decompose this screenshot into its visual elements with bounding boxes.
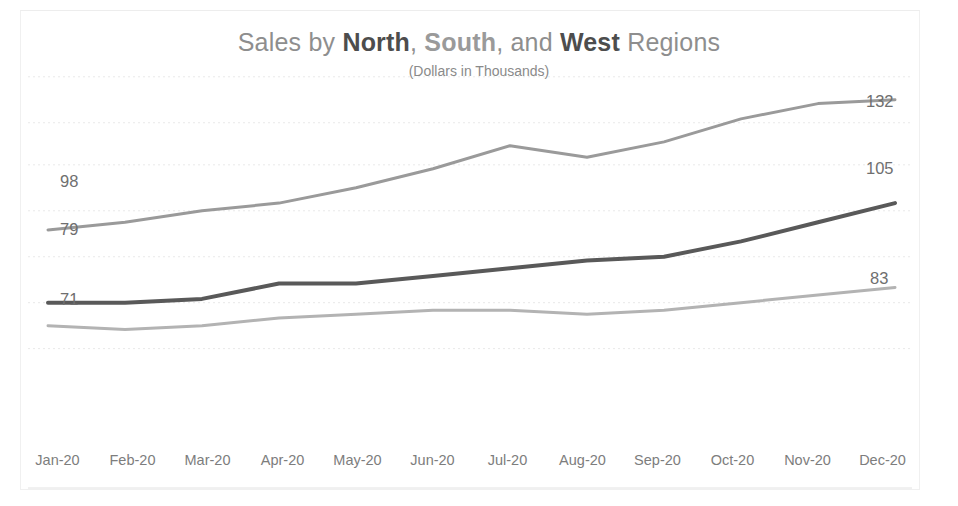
chart-canvas [20,10,920,490]
x-tick-label: Aug-20 [545,452,620,478]
x-tick-label: Mar-20 [170,452,245,478]
value-label-north-end: 105 [866,159,894,178]
plot-area [20,10,920,490]
value-label-south-start: 98 [60,172,78,191]
x-axis-labels: Jan-20Feb-20Mar-20Apr-20May-20Jun-20Jul-… [20,452,920,478]
x-tick-label: Feb-20 [95,452,170,478]
series-line-south [48,100,895,230]
x-tick-label: Sep-20 [620,452,695,478]
value-label-west-start: 71 [60,290,78,309]
x-tick-label: Apr-20 [245,452,320,478]
value-label-west-end: 83 [870,269,888,288]
x-tick-label: Nov-20 [770,452,845,478]
value-label-south-end: 132 [866,92,894,111]
value-label-north-start: 79 [60,220,78,239]
x-tick-label: Dec-20 [845,452,920,478]
series-line-north [48,203,895,303]
x-tick-label: Jun-20 [395,452,470,478]
series-line-west [48,287,895,329]
x-tick-label: May-20 [320,452,395,478]
chart-screenshot: Sales by North, South, and West Regions … [0,0,958,506]
x-tick-label: Oct-20 [695,452,770,478]
x-tick-label: Jan-20 [20,452,95,478]
x-tick-label: Jul-20 [470,452,545,478]
